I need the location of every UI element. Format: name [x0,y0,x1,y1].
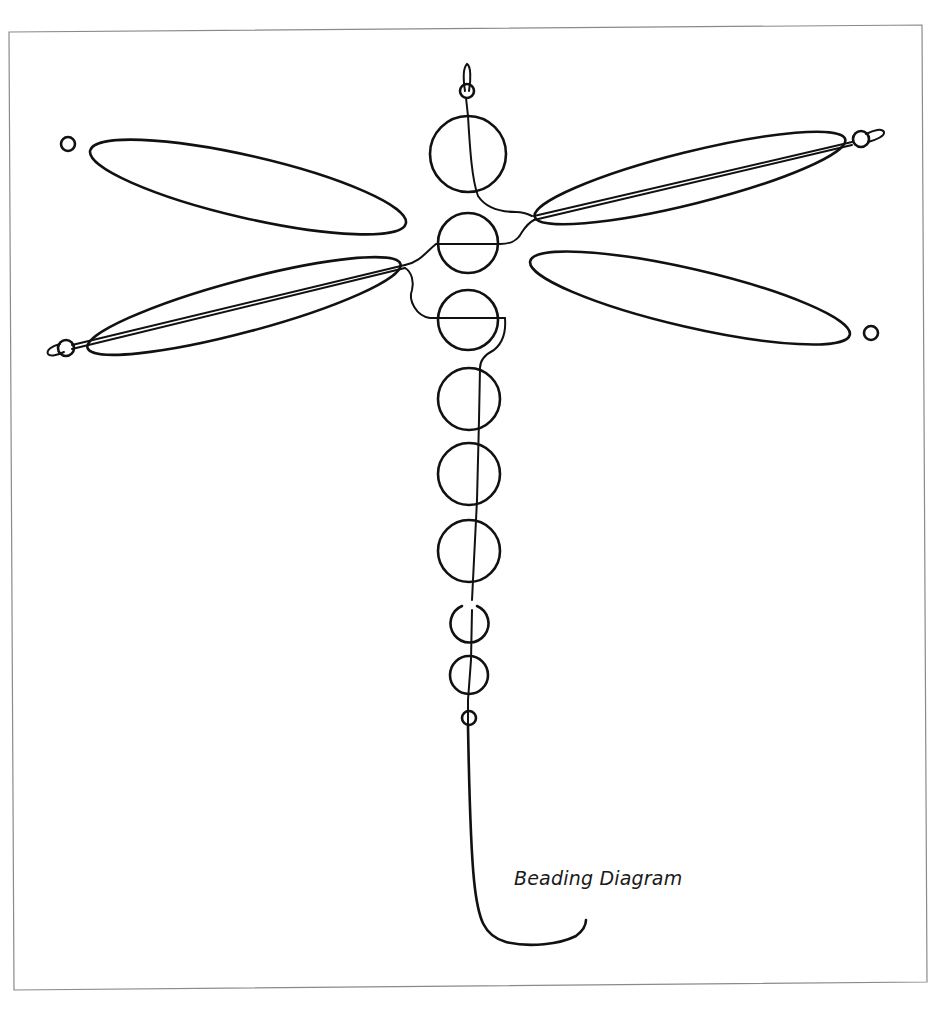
thorax-bead-2 [438,290,498,350]
head-small-bead [460,84,474,98]
wing-bead-lower-right [864,326,878,340]
abdomen-bead-2 [438,443,500,505]
wing-lower-right [524,233,857,363]
wing-loop-lower-left [48,344,64,355]
wire-thorax-1 [405,220,534,265]
tail-wire-curl [468,726,586,945]
wing-upper-right [528,114,851,242]
abdomen-bead-1 [438,368,500,430]
tail-bead-1 [451,606,489,642]
diagram-frame [9,25,927,990]
wire-abdomen [472,368,480,600]
wing-lower-left [81,239,407,373]
wing-bead-upper-left [61,137,75,151]
wire-thorax-2 [405,268,505,368]
beading-diagram [0,0,942,1024]
abdomen-bead-3 [438,520,500,582]
wing-wire-upper-right-b [534,145,852,220]
head-wire-loop [464,64,471,91]
diagram-caption: Beading Diagram [514,867,682,889]
wing-upper-left [83,120,413,253]
